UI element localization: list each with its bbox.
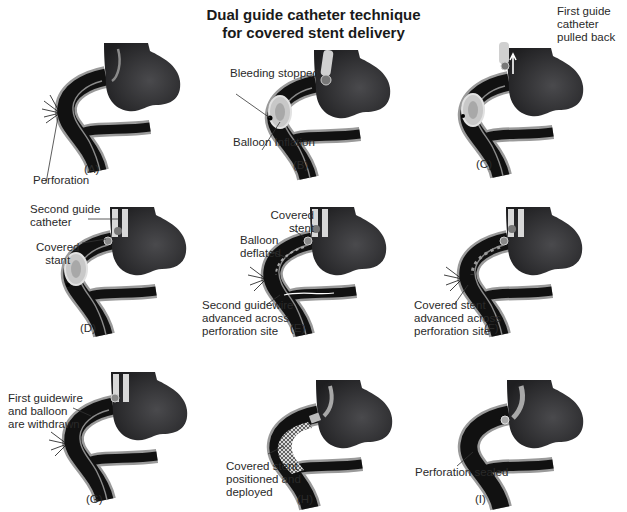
panel-h: [316, 380, 446, 512]
caption-c: (C): [476, 158, 492, 170]
panel-c: [507, 48, 627, 198]
label-second-guide-catheter: Second guide catheter: [30, 203, 100, 229]
vessel-diagram-b: [314, 50, 444, 200]
figure-title: Dual guide catheter technique for covere…: [0, 6, 627, 42]
label-perforation-sealed: Perforation sealed: [415, 466, 508, 479]
caption-a: (A): [84, 163, 99, 175]
panel-f: [506, 207, 627, 357]
vessel-diagram-f: [506, 207, 627, 357]
label-bleeding-stopped: Bleeding stopped: [230, 67, 319, 80]
vessel-diagram-h: [316, 380, 446, 512]
vessel-diagram-a: [104, 43, 234, 193]
label-covered-stant: Covered stant: [36, 241, 79, 267]
vessel-diagram-g: [111, 372, 241, 512]
caption-f: (F): [484, 322, 499, 334]
caption-i: (I): [475, 493, 486, 505]
label-balloon-inflation: Balloon Inflation: [233, 136, 315, 149]
panel-g: [111, 372, 241, 512]
label-covered-stent-deployed: Covered stent positioned and deployed: [226, 460, 301, 499]
label-first-guide-catheter-pulled-back: First guide catheter pulled back: [557, 5, 615, 44]
vessel-diagram-c: [507, 48, 627, 198]
panel-b: [314, 50, 444, 200]
panel-a: [104, 43, 234, 193]
title-line-1: Dual guide catheter technique: [0, 6, 627, 24]
vessel-diagram-i: [507, 380, 627, 512]
caption-b: (B): [293, 159, 308, 171]
caption-h: (H): [297, 493, 313, 505]
label-balloon-deflated: Balloon deflated: [240, 234, 281, 260]
label-covered-stent-e: Covered stent: [270, 209, 314, 235]
title-line-2: for covered stent delivery: [0, 24, 627, 42]
caption-e: (E): [290, 322, 305, 334]
label-perforation: Perforation: [33, 174, 89, 187]
caption-d: (D): [80, 322, 96, 334]
label-first-guidewire-withdrawn: First guidewire and balloon are withdraw…: [8, 392, 83, 431]
label-second-guidewire-advanced: Second guidewire advanced across perfora…: [202, 299, 293, 338]
panel-i: [507, 380, 627, 512]
caption-g: (G): [86, 493, 103, 505]
